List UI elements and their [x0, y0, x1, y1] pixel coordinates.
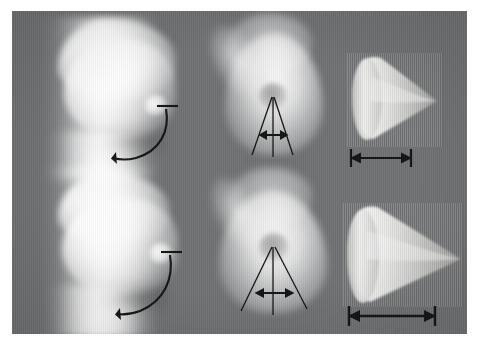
arc-annotation-row2: [12, 173, 197, 334]
angle-annotation-row2: [197, 173, 337, 334]
lateral-profile-view-row2: [12, 173, 197, 334]
cone-model-row1: [337, 11, 467, 173]
measure-bar-row2: [337, 173, 467, 334]
lateral-profile-view-row1: [12, 11, 197, 173]
cone-model-row2: [337, 173, 467, 334]
angle-annotation-row1: [197, 11, 337, 173]
measure-bar-row1: [337, 11, 467, 173]
frontal-view-row1: [197, 11, 337, 173]
arc-annotation-row1: [12, 11, 197, 173]
photographic-plate: [12, 11, 467, 334]
frontal-view-row2: [197, 173, 337, 334]
figure-root: [0, 0, 487, 346]
